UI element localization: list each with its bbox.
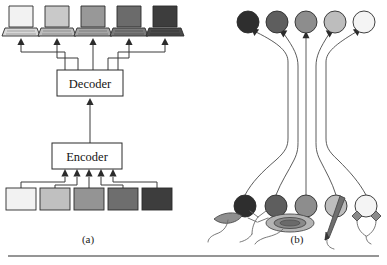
decoder-output-wires [17, 38, 168, 70]
source-square-3 [108, 188, 138, 210]
encoder-arrowheads [61, 169, 116, 177]
laptop-row [2, 6, 184, 36]
leaf-icon [208, 213, 242, 242]
top-circle-0 [237, 11, 259, 33]
decoder-box: Decoder [57, 70, 123, 96]
laptop-4 [146, 6, 184, 36]
top-circle-1 [266, 11, 288, 33]
laptop-2 [74, 6, 112, 36]
top-circle-2 [295, 11, 317, 33]
panel-b-label: (b) [291, 233, 304, 246]
figure-svg: Decoder Encoder [0, 0, 387, 265]
encoder-box: Encoder [52, 143, 122, 169]
decoder-label: Decoder [69, 77, 112, 91]
figure-root: Decoder Encoder [0, 0, 387, 265]
encoder-input-wires [21, 169, 157, 188]
panel-a-label: (a) [82, 233, 95, 246]
panel-b: (b) [208, 11, 381, 249]
source-square-row [6, 188, 172, 210]
source-square-1 [40, 188, 70, 210]
percept-bundle-wires [245, 28, 366, 195]
source-square-0 [6, 188, 36, 210]
encoder-label: Encoder [66, 150, 108, 164]
source-square-2 [74, 188, 104, 210]
stone-disc-icon [255, 214, 314, 244]
decoder-arrowheads [17, 38, 168, 45]
source-square-4 [142, 188, 172, 210]
panel-a: Decoder Encoder [2, 6, 184, 246]
bottom-circle-1 [265, 195, 287, 217]
latent-wire [86, 98, 93, 143]
bottom-circle-2 [295, 195, 317, 217]
laptop-1 [38, 6, 76, 36]
top-circle-3 [324, 11, 346, 33]
laptop-0 [2, 6, 40, 36]
top-circle-4 [353, 11, 375, 33]
laptop-3 [110, 6, 148, 36]
